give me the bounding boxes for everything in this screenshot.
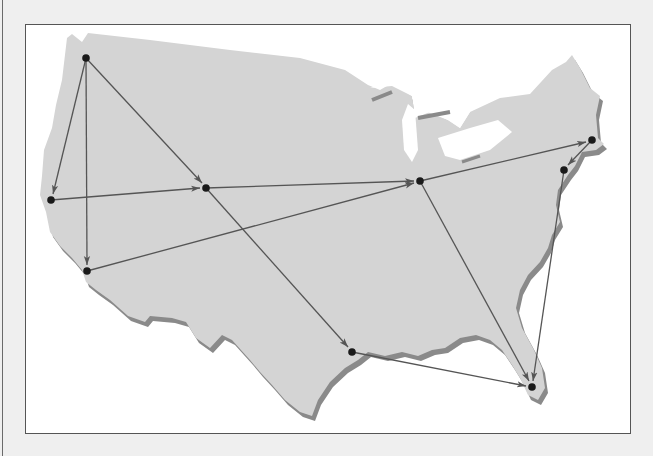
node-seattle (82, 54, 90, 62)
land-mass (40, 33, 604, 416)
node-chicago (416, 177, 424, 185)
edge-houston-miami (352, 352, 526, 386)
node-miami (528, 383, 536, 391)
us-network-map (0, 0, 653, 456)
node-houston (348, 348, 356, 356)
node-boston (588, 136, 596, 144)
node-newyork (560, 166, 568, 174)
node-sanfrancisco (47, 196, 55, 204)
node-denver (202, 184, 210, 192)
node-losangeles (83, 267, 91, 275)
